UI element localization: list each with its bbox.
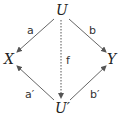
label-a-prime: a′ bbox=[25, 88, 35, 101]
label-b-prime: b′ bbox=[90, 88, 100, 101]
label-b: b bbox=[89, 24, 96, 37]
node-u-prime: U′ bbox=[55, 100, 71, 116]
edge-u2-to-x bbox=[17, 66, 54, 100]
node-x: X bbox=[3, 51, 15, 67]
edge-u-to-x bbox=[17, 19, 54, 52]
commutative-diagram: U X Y U′ a b a′ b′ f bbox=[0, 0, 122, 120]
node-u: U bbox=[56, 2, 69, 18]
edge-u-to-y bbox=[69, 19, 106, 52]
label-f: f bbox=[66, 54, 71, 67]
edge-u2-to-y bbox=[70, 66, 106, 100]
node-y: Y bbox=[107, 51, 118, 67]
label-a: a bbox=[27, 24, 34, 37]
